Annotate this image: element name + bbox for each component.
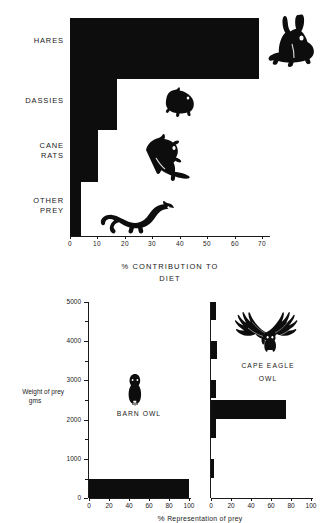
barn-owl-x-axis bbox=[89, 498, 191, 499]
top-chart-x-axis bbox=[70, 236, 270, 237]
cape-eagle-owl-x-tick-100 bbox=[311, 498, 312, 501]
y-tick-minor-2500 bbox=[85, 400, 88, 401]
barn-owl-x-label-20: 20 bbox=[105, 502, 112, 509]
cape-eagle-owl-bar-500-1000 bbox=[211, 459, 214, 478]
barn-owl-x-label-0: 0 bbox=[87, 502, 91, 509]
category-label-other-prey-line1: OTHER bbox=[6, 196, 64, 206]
top-x-tick-60 bbox=[235, 236, 236, 239]
top-x-tick-0 bbox=[70, 236, 71, 239]
bar-dassies bbox=[70, 79, 117, 130]
category-label-cane-rats: CANE RATS bbox=[6, 141, 64, 161]
category-label-cane-rats-line1: CANE bbox=[6, 141, 64, 151]
y-tick-minor-3500 bbox=[85, 361, 88, 362]
top-x-label-40: 40 bbox=[176, 240, 184, 247]
barn-owl-silhouette bbox=[124, 372, 146, 406]
cape-eagle-owl-x-label-100: 100 bbox=[306, 502, 317, 509]
y-tick-2000 bbox=[84, 420, 88, 421]
y-label-2000: 2000 bbox=[51, 416, 81, 423]
category-label-hares: HARES bbox=[6, 36, 64, 46]
bottom-chart-y-axis bbox=[88, 302, 89, 498]
category-label-hares-line1: HARES bbox=[34, 36, 64, 45]
cape-eagle-owl-x-label-40: 40 bbox=[247, 502, 254, 509]
cape-eagle-owl-x-label-60: 60 bbox=[267, 502, 274, 509]
bottom-panel-prey-weight: Weight of prey gms 5000 4000 3000 2000 1… bbox=[0, 292, 330, 521]
cape-eagle-owl-bar-4500-5000 bbox=[211, 302, 216, 320]
bar-hares bbox=[70, 18, 259, 79]
cape-eagle-owl-x-tick-60 bbox=[271, 498, 272, 501]
top-x-label-30: 30 bbox=[148, 240, 156, 247]
percent-symbol-icon: % bbox=[158, 514, 165, 523]
y-tick-4000 bbox=[84, 341, 88, 342]
y-tick-minor-4500 bbox=[85, 321, 88, 322]
cape-eagle-owl-label-line2: OWL bbox=[222, 375, 314, 382]
category-label-other-prey-line2: PREY bbox=[6, 206, 64, 216]
y-axis-label: Weight of prey gms bbox=[6, 387, 64, 405]
cape-eagle-owl-bar-1500-2000 bbox=[211, 419, 216, 438]
barn-owl-x-label-60: 60 bbox=[145, 502, 152, 509]
barn-owl-bar-0-500 bbox=[89, 479, 189, 498]
top-x-label-50: 50 bbox=[203, 240, 211, 247]
category-label-cane-rats-line2: RATS bbox=[6, 151, 64, 161]
cape-eagle-owl-x-label-20: 20 bbox=[227, 502, 234, 509]
bar-cane-rats bbox=[70, 130, 98, 182]
cape-eagle-owl-x-tick-80 bbox=[291, 498, 292, 501]
barn-owl-x-tick-40 bbox=[129, 498, 130, 501]
bottom-chart-caption: % Representation of prey bbox=[105, 514, 295, 523]
category-label-dassies: DASSIES bbox=[6, 96, 64, 106]
cape-eagle-owl-label-line1: CAPE EAGLE bbox=[222, 362, 314, 369]
y-axis-label-line2: gms bbox=[6, 396, 64, 405]
barn-owl-x-tick-60 bbox=[149, 498, 150, 501]
y-axis-label-line1: Weight of prey bbox=[6, 387, 64, 396]
top-x-label-60: 60 bbox=[231, 240, 239, 247]
cape-eagle-owl-bar-2000-2500 bbox=[211, 400, 286, 419]
top-x-tick-50 bbox=[207, 236, 208, 239]
hare-silhouette bbox=[264, 10, 326, 72]
y-label-3000: 3000 bbox=[51, 376, 81, 383]
top-x-tick-10 bbox=[97, 236, 98, 239]
top-x-label-0: 0 bbox=[68, 240, 72, 247]
top-x-label-70: 70 bbox=[258, 240, 266, 247]
cape-eagle-owl-x-tick-0 bbox=[211, 498, 212, 501]
cape-eagle-owl-x-tick-40 bbox=[251, 498, 252, 501]
y-label-0: 0 bbox=[51, 494, 81, 501]
top-x-label-20: 20 bbox=[121, 240, 129, 247]
top-x-label-10: 10 bbox=[93, 240, 101, 247]
top-x-tick-40 bbox=[180, 236, 181, 239]
y-label-5000: 5000 bbox=[51, 298, 81, 305]
top-panel-diet-composition: HARES DASSIES CANE RATS OTHER PREY bbox=[0, 0, 330, 292]
cape-eagle-owl-x-label-80: 80 bbox=[287, 502, 294, 509]
top-chart-caption-line1: % CONTRIBUTION TO bbox=[80, 262, 260, 271]
barn-owl-label: BARN OWL bbox=[96, 410, 182, 417]
y-tick-minor-1500 bbox=[85, 439, 88, 440]
top-chart-caption-line2: DIET bbox=[80, 274, 260, 283]
y-tick-minor-500 bbox=[85, 479, 88, 480]
y-tick-1000 bbox=[84, 459, 88, 460]
cape-eagle-owl-x-axis bbox=[211, 498, 313, 499]
y-label-1000: 1000 bbox=[51, 455, 81, 462]
bar-other-prey bbox=[70, 182, 81, 236]
cape-eagle-owl-x-label-0: 0 bbox=[209, 502, 213, 509]
category-label-other-prey: OTHER PREY bbox=[6, 196, 64, 216]
barn-owl-x-label-40: 40 bbox=[125, 502, 132, 509]
top-x-tick-20 bbox=[125, 236, 126, 239]
category-label-dassies-line1: DASSIES bbox=[25, 96, 64, 105]
barn-owl-x-label-100: 100 bbox=[184, 502, 195, 509]
barn-owl-x-tick-0 bbox=[89, 498, 90, 501]
barn-owl-x-tick-20 bbox=[109, 498, 110, 501]
y-tick-5000 bbox=[84, 302, 88, 303]
barn-owl-x-tick-100 bbox=[189, 498, 190, 501]
mongoose-silhouette bbox=[88, 196, 180, 236]
bottom-chart-caption-text: Representation of prey bbox=[167, 515, 242, 522]
cape-eagle-owl-bar-3000-3500 bbox=[211, 341, 217, 359]
barn-owl-x-label-80: 80 bbox=[165, 502, 172, 509]
cape-eagle-owl-bar-2500-3000 bbox=[211, 380, 216, 398]
y-label-4000: 4000 bbox=[51, 337, 81, 344]
y-tick-0 bbox=[84, 498, 88, 499]
cane-rat-silhouette bbox=[128, 132, 200, 184]
cape-eagle-owl-x-tick-20 bbox=[231, 498, 232, 501]
y-tick-3000 bbox=[84, 380, 88, 381]
barn-owl-x-tick-80 bbox=[169, 498, 170, 501]
eagle-owl-silhouette bbox=[226, 308, 314, 368]
dassie-silhouette bbox=[155, 86, 203, 120]
